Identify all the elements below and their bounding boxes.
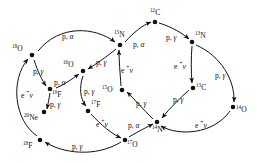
reaction-label-o15-to-n15: e +ν	[121, 67, 133, 75]
nuclide-label-c13: 13C	[196, 84, 206, 92]
nuclide-label-o14: 14O	[236, 106, 247, 114]
reaction-label-f17-to-o17: e +ν	[96, 121, 108, 129]
reaction-label-c12-to-n13: p, γ	[166, 34, 177, 42]
element-symbol: F	[96, 100, 100, 109]
nuclide-label-o17: 17O	[127, 141, 138, 149]
reaction-label-o14-to-n14: e +ν	[195, 122, 207, 130]
nuclide-label-ne20: 20Ne	[24, 114, 38, 122]
nuclide-label-o15: 15O	[102, 86, 113, 94]
node-dot-F18	[38, 138, 43, 143]
element-symbol: F	[57, 90, 61, 99]
reaction-label-o18-to-f19: p, γ	[33, 68, 44, 76]
element-symbol: Ne	[29, 113, 38, 122]
reaction-label-o16-to-f17: p, γ	[84, 88, 95, 96]
nuclide-label-n14: 14N	[152, 126, 163, 134]
reaction-label-n14-to-o15: p, γ	[136, 100, 147, 108]
reaction-label-o18-to-n15: p, α	[62, 33, 74, 41]
arrow-O17-to-F18	[45, 142, 121, 152]
node-dot-O18	[30, 53, 35, 58]
reaction-label-o17-to-f18: p, γ	[72, 143, 83, 151]
node-dot-O14	[231, 105, 236, 110]
nuclide-label-n13: 13N	[195, 32, 206, 40]
reaction-label-n13-to-o14: p, γ	[215, 72, 226, 80]
reaction-label-f18-to-o18: e +ν	[21, 92, 33, 100]
node-dot-N13	[190, 40, 195, 45]
element-symbol: N	[200, 31, 205, 40]
element-symbol: F	[28, 141, 32, 150]
nuclide-label-o18: 18O	[12, 45, 23, 53]
element-symbol: O	[17, 44, 22, 53]
nuclide-label-f19: 19F	[52, 91, 61, 99]
arrow-O18-to-N15	[38, 31, 115, 51]
nuclide-label-o16: 16O	[63, 61, 74, 69]
reaction-label-f19-to-o16: p, α	[54, 79, 66, 87]
element-symbol: O	[68, 60, 73, 69]
reaction-label-n13-to-c13: e +ν	[174, 63, 186, 71]
node-dot-N15	[118, 43, 123, 48]
reaction-label-n15-to-o16: p, γ	[96, 59, 107, 67]
reaction-label-o17-to-n14: p, α	[128, 122, 140, 130]
nuclide-label-n15: 15N	[114, 31, 125, 39]
nuclide-label-f17: 17F	[91, 101, 100, 109]
reaction-label-c13-to-n14: p, γ	[173, 96, 184, 104]
element-symbol: N	[119, 30, 124, 39]
element-symbol: O	[241, 105, 246, 114]
element-symbol: C	[201, 83, 206, 92]
node-dot-F17	[86, 109, 91, 114]
element-symbol: O	[132, 140, 137, 149]
node-dot-C12	[153, 20, 158, 25]
node-dot-C13	[191, 86, 196, 91]
cno-cycle-diagram: 18O19F20Ne18F16O17F17O15N15O14N12C13N13C…	[0, 0, 260, 163]
nuclide-label-f18: 18F	[23, 142, 32, 150]
nuclide-label-c12: 12C	[150, 9, 160, 17]
element-symbol: C	[155, 8, 160, 17]
node-dot-O16	[81, 69, 86, 74]
reaction-label-n15-to-c12: p, α	[133, 41, 145, 49]
element-symbol: N	[157, 125, 162, 134]
node-dot-O15	[120, 88, 125, 93]
reaction-label-f19-to-ne20: p, γ	[50, 101, 61, 109]
arrow-N13-to-C13	[191, 46, 192, 83]
node-dot-Ne20	[42, 110, 47, 115]
arrow-N15-to-C12	[125, 22, 151, 42]
element-symbol: O	[107, 85, 112, 94]
